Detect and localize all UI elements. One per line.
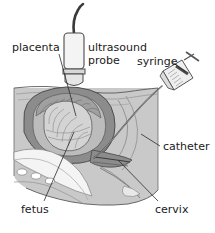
probe-cable bbox=[74, 4, 84, 34]
label-placenta: placenta bbox=[12, 41, 60, 54]
label-catheter: catheter bbox=[163, 140, 210, 153]
label-fetus: fetus bbox=[21, 203, 49, 216]
syringe-plunger bbox=[186, 52, 199, 61]
label-probe: probe bbox=[88, 54, 120, 67]
fetus bbox=[44, 101, 92, 151]
medical-illustration: placenta ultrasound probe syringe cathet… bbox=[0, 0, 215, 233]
label-syringe: syringe bbox=[137, 55, 178, 68]
label-ultrasound: ultrasound bbox=[88, 41, 147, 54]
ultrasound-probe[interactable] bbox=[63, 4, 85, 86]
label-cervix: cervix bbox=[155, 203, 189, 216]
